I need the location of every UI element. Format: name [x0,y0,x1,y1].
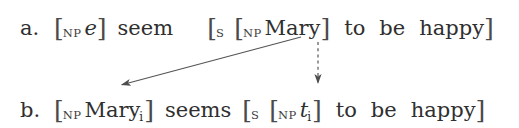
movement-arrow-icon [122,37,301,85]
subject-index-i-b: i [139,111,143,123]
category-label-s-a: S [216,28,224,40]
bracket-close-s-a: ] [484,15,494,40]
bracket-close-np1-a: ] [97,15,107,40]
trace-index-i: i [307,111,311,123]
predicate-happy-a: happy [419,18,484,39]
category-label-np-b2: NP [278,110,297,122]
infinitive-to-b: to [336,100,357,121]
infinitive-to-a: to [344,18,365,39]
bracket-close-np2-b: ] [312,97,322,122]
bracket-close-np2-a: ] [320,15,330,40]
category-label-np-a2: NP [243,28,262,40]
example-line-a: a.[NPe]seem[S[NPMary]tobehappy] [0,14,519,39]
syntax-derivation-figure: a.[NPe]seem[S[NPMary]tobehappy] b.[NPMar… [0,0,519,128]
line-b-tokens: [NPMaryi]seems[S[NPti]tobehappy] [54,98,485,122]
line-a-label: a. [0,18,54,39]
category-label-s-b: S [251,110,259,122]
bracket-close-s-b: ] [476,97,486,122]
matrix-verb-b: seems [165,100,231,121]
category-label-np-a1: NP [63,28,82,40]
bracket-close-np1-b: ] [144,97,154,122]
copula-be-a: be [379,18,405,39]
empty-category-e: e [84,18,96,39]
predicate-happy-b: happy [411,100,476,121]
copula-be-b: be [371,100,397,121]
example-line-b: b.[NPMaryi]seems[S[NPti]tobehappy] [0,96,519,121]
line-a-tokens: [NPe]seem[S[NPMary]tobehappy] [54,16,494,40]
matrix-verb-a: seem [118,18,174,39]
line-b-label: b. [0,100,54,121]
raised-subject-mary-b: Mary [84,100,140,121]
category-label-np-b1: NP [63,110,82,122]
embedded-subject-mary-a: Mary [265,18,321,39]
